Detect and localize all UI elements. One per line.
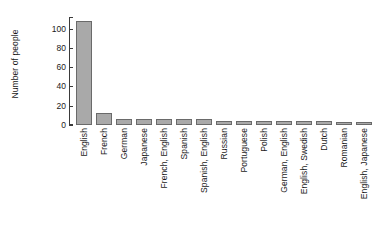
y-axis-tick-label: 100 [36,24,66,34]
bar [116,119,132,125]
bar [336,122,352,125]
y-axis-tick [69,106,73,107]
y-axis-line [69,17,73,125]
x-axis-label: Dutch [319,128,329,151]
x-axis-label: Spanish, English [199,128,209,193]
bar [356,122,372,125]
x-axis-label: German [119,128,129,159]
y-axis-tick-label: 20 [36,101,66,111]
x-axis-label-slot: German, English [277,126,291,224]
x-axis-label: English [79,128,89,157]
bar [316,121,332,125]
y-axis-title: Number of people [0,2,30,126]
x-axis-labels: EnglishFrenchGermanJapaneseFrench, Engli… [74,126,374,226]
x-axis-label: Polish [259,128,269,152]
x-axis-label-slot: English, Swedish [297,126,311,224]
y-axis-tick [69,67,73,68]
bar [296,121,312,125]
y-axis-tick-label: 0 [36,120,66,130]
y-axis-tick-label: 60 [36,62,66,72]
y-axis-tick [69,29,73,30]
x-axis-label-slot: Spanish [177,126,191,224]
x-axis-label-slot: French [97,126,111,224]
y-axis-tick [69,86,73,87]
x-axis-label-slot: English, Japanese [357,126,371,224]
x-axis-label: English, Swedish [299,128,309,194]
y-axis-tick-label: 40 [36,81,66,91]
y-axis-tick [69,125,73,126]
x-axis-label-slot: French, English [157,126,171,224]
x-axis-label: Romanian [339,128,349,168]
bar [156,119,172,125]
x-axis-label-slot: Polish [257,126,271,224]
x-axis-label-slot: Dutch [317,126,331,224]
chart-screenshot: Number of people 020406080100 EnglishFre… [0,0,380,227]
bar-series [74,0,374,125]
x-axis-label: Russian [219,128,229,159]
bar [176,119,192,125]
x-axis-label-slot: Japanese [137,126,151,224]
x-axis-label-slot: English [77,126,91,224]
x-axis-label: Portuguese [239,128,249,172]
bar [196,119,212,125]
x-axis-label-slot: Spanish, English [197,126,211,224]
bar [96,113,112,125]
bar [256,121,272,125]
bar [216,121,232,125]
x-axis-label: English, Japanese [359,128,369,199]
x-axis-label-slot: Romanian [337,126,351,224]
x-axis-label: Spanish [179,128,189,159]
y-axis-tick-label: 80 [36,43,66,53]
y-axis-tick [69,48,73,49]
x-axis-label-slot: German [117,126,131,224]
x-axis-label: French [99,128,109,155]
x-axis-label: French, English [159,128,169,189]
bar [276,121,292,125]
x-axis-label-slot: Portuguese [237,126,251,224]
bar [136,119,152,125]
bar [76,21,92,125]
x-axis-label-slot: Russian [217,126,231,224]
x-axis-label: German, English [279,128,289,193]
bar [236,121,252,125]
x-axis-label: Japanese [139,128,149,166]
